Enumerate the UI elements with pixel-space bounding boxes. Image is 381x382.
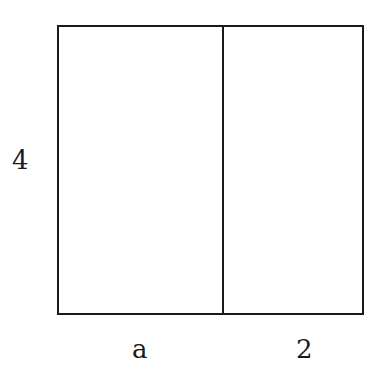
divider-line [222, 26, 224, 314]
width-left-label: a [132, 336, 148, 362]
height-label: 4 [12, 147, 29, 173]
width-right-label: 2 [296, 336, 313, 362]
outer-rectangle [57, 25, 364, 315]
